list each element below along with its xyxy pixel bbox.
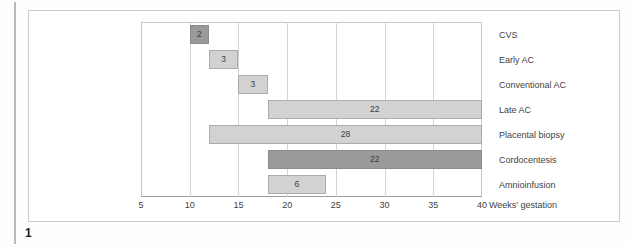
bar: 3 <box>238 75 267 94</box>
x-tick-label: 15 <box>233 200 243 210</box>
bar-row: 2 <box>141 22 482 47</box>
bar-row: 6 <box>141 172 482 197</box>
bar: 6 <box>268 175 326 194</box>
page-left-rule <box>14 2 16 244</box>
category-label: Placental biopsy <box>499 122 565 147</box>
x-tick-label: 35 <box>428 200 438 210</box>
category-label: CVS <box>499 22 518 47</box>
bar: 22 <box>268 100 482 119</box>
bar-row: 28 <box>141 122 482 147</box>
x-axis-title: Weeks' gestation <box>489 200 557 210</box>
bar-row: 22 <box>141 97 482 122</box>
bar-row: 3 <box>141 72 482 97</box>
x-tick-label: 20 <box>282 200 292 210</box>
bar: 22 <box>268 150 482 169</box>
x-axis-ticks: 510152025303540 <box>141 198 482 214</box>
x-tick-label: 10 <box>185 200 195 210</box>
figure-frame: 2332228226 510152025303540 Weeks' gestat… <box>28 10 620 222</box>
bar: 28 <box>209 125 482 144</box>
bar: 2 <box>190 25 209 44</box>
bar-value-label: 2 <box>197 30 202 39</box>
category-label: Amnioinfusion <box>499 172 556 197</box>
figure-number: 1 <box>25 226 32 240</box>
category-label: Conventional AC <box>499 72 566 97</box>
x-tick-label: 40 <box>477 200 487 210</box>
category-labels: CVSEarly ACConventional ACLate ACPlacent… <box>499 22 630 197</box>
bar-row: 3 <box>141 47 482 72</box>
bar-value-label: 22 <box>370 105 380 114</box>
x-tick-label: 25 <box>331 200 341 210</box>
figure-page: 2332228226 510152025303540 Weeks' gestat… <box>0 0 630 246</box>
bar-value-label: 22 <box>370 155 380 164</box>
bar-row: 22 <box>141 147 482 172</box>
bar: 3 <box>209 50 238 69</box>
bar-value-label: 6 <box>294 180 299 189</box>
category-label: Late AC <box>499 97 531 122</box>
bar-value-label: 3 <box>251 80 256 89</box>
category-label: Cordocentesis <box>499 147 557 172</box>
x-tick-label: 30 <box>380 200 390 210</box>
chart-plot-area: 2332228226 510152025303540 Weeks' gestat… <box>141 22 482 208</box>
bar-rows: 2332228226 <box>141 22 482 197</box>
bar-value-label: 28 <box>341 130 351 139</box>
category-label: Early AC <box>499 47 534 72</box>
bar-value-label: 3 <box>221 55 226 64</box>
x-tick-label: 5 <box>138 200 143 210</box>
